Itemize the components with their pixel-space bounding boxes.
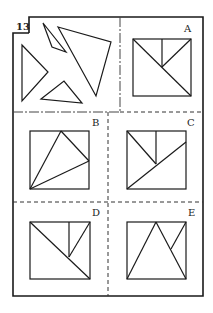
option-square — [30, 131, 89, 189]
option-a[interactable]: A — [133, 23, 192, 96]
option-d[interactable]: D — [30, 207, 100, 279]
question-pieces — [22, 23, 111, 103]
triangle-piece — [22, 45, 48, 101]
option-c[interactable]: C — [127, 117, 195, 189]
triangle-piece — [43, 23, 66, 52]
option-line — [30, 222, 90, 279]
puzzle-figure: 13 A B C D — [0, 0, 213, 313]
option-e[interactable]: E — [127, 207, 195, 279]
option-label: C — [187, 117, 195, 128]
option-square — [127, 222, 186, 279]
option-b[interactable]: B — [30, 117, 99, 189]
option-line — [171, 222, 186, 249]
option-label: E — [188, 207, 195, 218]
puzzle-number: 13 — [16, 21, 30, 32]
triangle-piece — [41, 81, 82, 103]
option-line — [127, 131, 156, 164]
option-line — [30, 161, 89, 189]
option-line — [61, 131, 89, 161]
option-label: B — [92, 117, 99, 128]
option-line — [69, 222, 90, 257]
option-line — [162, 39, 191, 67]
option-line — [127, 222, 156, 279]
option-label: D — [92, 207, 100, 218]
option-line — [30, 131, 61, 189]
option-label: A — [183, 23, 192, 34]
triangle-piece — [58, 27, 111, 96]
